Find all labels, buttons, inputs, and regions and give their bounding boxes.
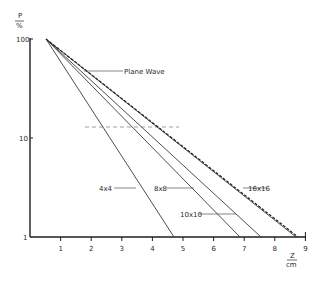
y-axis-label-bottom: % <box>16 22 23 30</box>
x-axis-label-top: Z <box>290 252 295 260</box>
x-tick-label-8: 8 <box>273 245 277 253</box>
x-tick-label-5: 5 <box>181 245 185 253</box>
label-10x10: 10x10 <box>180 211 202 219</box>
label-4x4: 4x4 <box>99 185 113 193</box>
y-tick-label-100: 100 <box>16 36 29 44</box>
y-axis-label-top: P <box>18 12 22 20</box>
x-tick-label-2: 2 <box>89 245 93 253</box>
y-tick-label-1: 1 <box>23 234 27 242</box>
x-tick-label-9: 9 <box>303 245 307 253</box>
x-tick-label-4: 4 <box>150 245 155 253</box>
label-plane-wave: Plane Wave <box>124 68 165 76</box>
x-tick-label-3: 3 <box>120 245 124 253</box>
attenuation-chart: P % 100 10 1 1 2 3 4 5 6 7 8 9 Z cm Plan… <box>0 0 324 283</box>
x-tick-label-7: 7 <box>242 245 246 253</box>
x-tick-label-6: 6 <box>211 245 216 253</box>
y-tick-label-10: 10 <box>19 135 28 143</box>
label-8x8: 8x8 <box>154 185 167 193</box>
x-tick-label-1: 1 <box>59 245 63 253</box>
label-16x16: 16x16 <box>248 185 271 193</box>
x-axis-label-bottom: cm <box>286 261 297 269</box>
